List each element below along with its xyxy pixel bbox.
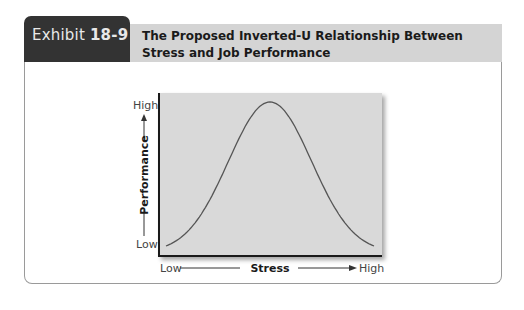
y-high-label: High: [133, 99, 158, 112]
y-arrow-head-icon: [141, 114, 147, 121]
x-arrow-head-icon: [349, 265, 357, 271]
x-axis-title: Stress: [250, 262, 290, 275]
x-high-label: High: [359, 262, 384, 275]
plot-area: [158, 93, 382, 257]
chart: High Low Performance Low Stress High: [0, 0, 524, 310]
x-low-label: Low: [160, 262, 182, 275]
y-axis-title: Performance: [138, 135, 151, 214]
y-low-label: Low: [136, 238, 158, 251]
